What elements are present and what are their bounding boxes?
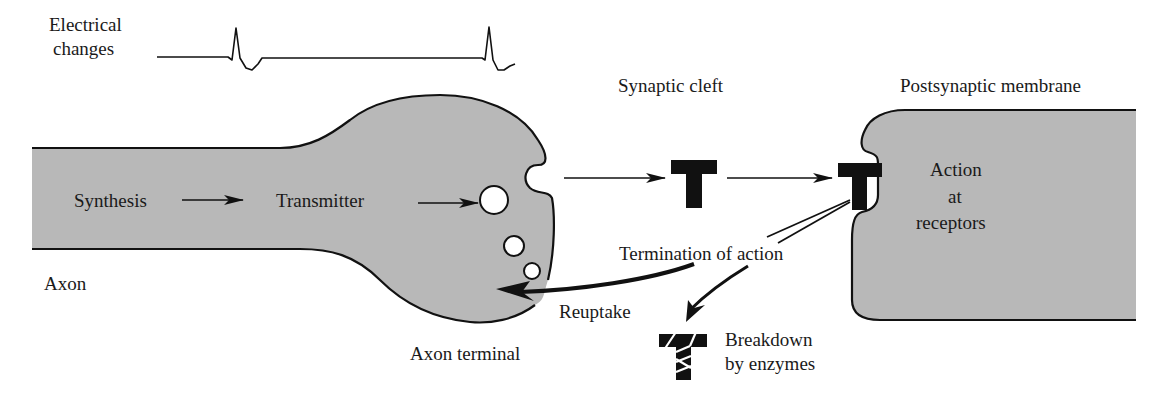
postsynaptic-membrane-label: Postsynaptic membrane	[900, 75, 1081, 97]
vesicle-small	[524, 263, 540, 279]
electrical-changes-label-1: Electrical	[49, 14, 122, 36]
broken-transmitter-icon	[659, 332, 707, 380]
action-at-receptors-label-2: at	[948, 186, 962, 208]
axon-terminal-label: Axon terminal	[410, 343, 520, 365]
vesicle-large	[480, 186, 508, 214]
transmitter-molecule-icon	[671, 160, 717, 208]
termination-line-1	[767, 200, 850, 237]
axon-label: Axon	[44, 273, 86, 295]
synapse-diagram	[0, 0, 1170, 404]
electrical-changes-label-2: changes	[53, 38, 114, 60]
termination-line-2	[778, 202, 850, 243]
synaptic-cleft-label: Synaptic cleft	[618, 75, 723, 97]
electrical-trace	[157, 27, 515, 70]
breakdown-arrow	[690, 266, 748, 310]
postsynaptic-shape	[852, 110, 1136, 320]
synthesis-label: Synthesis	[74, 190, 147, 212]
breakdown-label-2: by enzymes	[725, 353, 815, 375]
reuptake-label: Reuptake	[559, 301, 631, 323]
breakdown-label-1: Breakdown	[725, 329, 813, 351]
vesicle-medium	[504, 236, 524, 256]
transmitter-label: Transmitter	[276, 190, 364, 212]
action-at-receptors-label-3: receptors	[916, 212, 986, 234]
termination-of-action-label: Termination of action	[619, 243, 783, 265]
action-at-receptors-label-1: Action	[930, 159, 982, 181]
